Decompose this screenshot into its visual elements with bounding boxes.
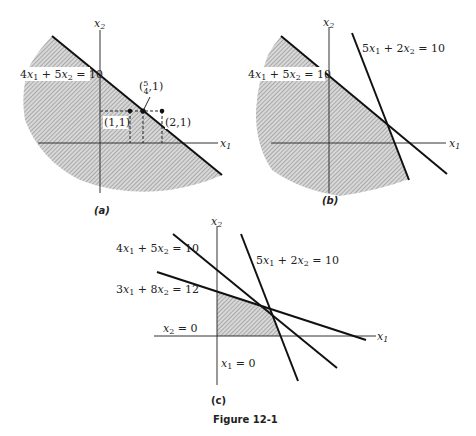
panel-label-a: (a) (94, 205, 110, 216)
point-label-5-4-1: (54,1) (139, 79, 163, 96)
point-5-4-1 (140, 108, 145, 113)
feasible-region-b (256, 36, 409, 196)
constraint-label-5x1-2x2-c: 5x1 + 2x2 = 10 (256, 254, 339, 268)
x1-label-a: x1 (220, 137, 231, 151)
panel-c: 4x1 + 5x2 = 10 3x1 + 8x2 = 12 5x1 + 2x2 … (116, 215, 388, 406)
constraint-label-x2-0: x2 = 0 (163, 322, 198, 336)
panel-b: 4x1 + 5x2 = 10 5x1 + 2x2 = 10 x1 x2 (b) (247, 16, 460, 206)
point-label-2-1: (2,1) (165, 116, 191, 129)
x2-label-b: x2 (323, 16, 334, 30)
panel-label-c: (c) (211, 395, 226, 406)
x2-label-c: x2 (211, 215, 222, 229)
panel-label-b: (b) (322, 195, 338, 206)
constraint-label-x1-0: x1 = 0 (221, 357, 256, 371)
figure-caption: Figure 12-1 (213, 414, 278, 425)
panel-a: 4x1 + 5x2 = 10 (1,1) (2,1) (54,1) x1 x2 … (18, 17, 231, 216)
x1-label-c: x1 (377, 330, 388, 344)
constraint-label-4x1-5x2-c: 4x1 + 5x2 = 10 (116, 242, 199, 256)
x2-label-a: x2 (94, 17, 105, 31)
constraint-label-a: 4x1 + 5x2 = 10 (20, 68, 103, 82)
point-1-1 (128, 109, 133, 114)
point-label-1-1: (1,1) (104, 116, 130, 129)
constraint-label-5x1-2x2-b: 5x1 + 2x2 = 10 (362, 42, 445, 56)
point-2-1 (160, 109, 165, 114)
x1-label-b: x1 (449, 137, 460, 151)
pointer-arrow (144, 97, 150, 109)
feasible-region-a (23, 36, 222, 192)
constraint-label-3x1-8x2-c: 3x1 + 8x2 = 12 (116, 283, 199, 297)
constraint-label-4x1-5x2-b: 4x1 + 5x2 = 10 (248, 68, 331, 82)
figure-12-1: 4x1 + 5x2 = 10 (1,1) (2,1) (54,1) x1 x2 … (0, 0, 476, 436)
